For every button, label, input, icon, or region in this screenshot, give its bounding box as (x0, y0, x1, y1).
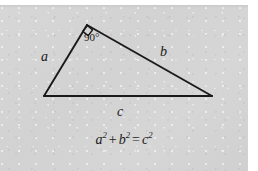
equation-operator-equals: = (130, 132, 142, 147)
equation-term-b: b (119, 132, 126, 147)
equation-exp-c: 2 (148, 130, 152, 140)
angle-label-90-degrees: 90° (84, 32, 99, 43)
triangle-side-b-line (87, 25, 212, 96)
triangle-side-a-line (44, 25, 87, 96)
equation-operator-plus: + (107, 132, 119, 147)
side-label-c: c (117, 105, 123, 119)
pythagorean-equation: a2+b2=c2 (0, 131, 248, 147)
side-label-b: b (160, 45, 167, 59)
side-label-a: a (41, 50, 48, 64)
figure-container: a b c 90° a2+b2=c2 (0, 0, 258, 171)
